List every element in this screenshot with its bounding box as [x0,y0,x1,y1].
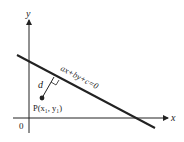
distance-label: d [38,79,44,90]
y-axis-label: y [25,8,31,19]
distance-diagram: y x 0 d P(x₁, y₁) ax+by+c=0 [0,0,184,142]
origin-label: 0 [19,121,24,131]
perpendicular-segment [42,77,54,98]
x-axis-label: x [170,112,176,123]
point-p [40,96,45,101]
line-ax-by-c [17,55,155,128]
line-equation-label: ax+by+c=0 [59,63,101,92]
point-label: P(x₁, y₁) [33,103,62,113]
